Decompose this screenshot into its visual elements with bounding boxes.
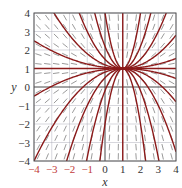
x-tick-label: 0 bbox=[102, 163, 108, 175]
x-tick-label: −2 bbox=[64, 163, 76, 175]
y-tick-labels: −4−3−2−101234 bbox=[18, 7, 30, 167]
y-tick-label: 1 bbox=[25, 63, 31, 75]
y-tick-label: 4 bbox=[25, 7, 31, 19]
x-axis-label: x bbox=[101, 175, 108, 188]
x-tick-label: 3 bbox=[156, 163, 162, 175]
y-tick-label: 3 bbox=[25, 26, 31, 38]
y-tick-label: −2 bbox=[18, 118, 30, 130]
solution-curve bbox=[67, 0, 176, 68]
y-axis-label: y bbox=[10, 80, 17, 94]
x-tick-label: −1 bbox=[81, 163, 93, 175]
x-tick-label: 2 bbox=[138, 163, 144, 175]
direction-field-chart: −4−3−2−101234 −4−3−2−101234 x y bbox=[0, 0, 182, 188]
y-tick-label: −4 bbox=[18, 155, 30, 167]
y-tick-label: −3 bbox=[18, 137, 30, 149]
y-tick-label: −1 bbox=[18, 100, 30, 112]
y-tick-label: 2 bbox=[25, 44, 31, 56]
x-tick-labels: −4−3−2−101234 bbox=[28, 163, 179, 175]
y-tick-label: 0 bbox=[25, 81, 31, 93]
x-tick-label: 1 bbox=[120, 163, 126, 175]
x-tick-label: 4 bbox=[173, 163, 179, 175]
x-tick-label: −3 bbox=[46, 163, 58, 175]
